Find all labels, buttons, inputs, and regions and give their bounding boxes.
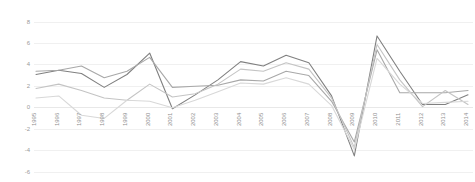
x-tick-label: 2006 [281, 112, 287, 126]
x-tick-label: 2000 [145, 112, 151, 126]
x-tick-label: 1995 [31, 112, 37, 126]
y-tick-label: 8 [27, 19, 31, 25]
x-tick-label: 2014 [463, 112, 469, 126]
y-tick-label: 6 [27, 40, 31, 46]
x-tick-label: 2005 [258, 112, 264, 126]
x-tick-label: 2009 [349, 112, 355, 126]
line-series-3 [36, 45, 468, 148]
x-tick-label: 2011 [395, 112, 401, 126]
x-tick-label: 2013 [440, 112, 446, 126]
x-tick-label: 2012 [418, 112, 424, 126]
y-tick-label: 4 [27, 61, 31, 67]
y-tick-label: -6 [25, 169, 31, 175]
x-tick-label: 2003 [213, 112, 219, 126]
chart-canvas: 86420-2-4-6 1995199619971998199920002001… [0, 0, 475, 182]
x-tick-label: 1997 [76, 112, 82, 126]
x-tick-label: 2002 [190, 112, 196, 126]
series-lines [36, 36, 468, 156]
line-series-4 [36, 58, 468, 149]
x-tick-label: 2004 [236, 112, 242, 126]
y-tick-label: 2 [27, 83, 31, 89]
line-series-1 [36, 36, 468, 156]
y-tick-label: -2 [25, 126, 31, 132]
x-tick-label: 2007 [304, 112, 310, 126]
x-tick-label: 2010 [372, 112, 378, 126]
x-tick-label: 2008 [327, 112, 333, 126]
x-tick-label: 1998 [99, 112, 105, 126]
x-axis-tick-labels: 1995199619971998199920002001200220032004… [31, 112, 469, 126]
line-chart: 86420-2-4-6 1995199619971998199920002001… [0, 0, 475, 182]
y-axis-tick-labels: 86420-2-4-6 [25, 19, 31, 175]
y-tick-label: 0 [27, 104, 31, 110]
x-tick-label: 1996 [54, 112, 60, 126]
x-tick-label: 1999 [122, 112, 128, 126]
x-tick-label: 2001 [167, 112, 173, 126]
y-tick-label: -4 [25, 147, 31, 153]
